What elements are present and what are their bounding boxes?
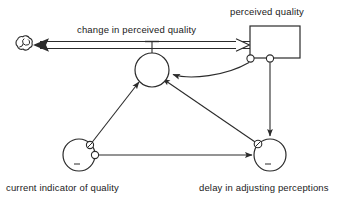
connector-indicator-to-valve[interactable] bbox=[90, 82, 139, 145]
connector-port-indicator-lower bbox=[91, 151, 98, 158]
aux-label-delay-in-adjusting-perceptions: delay in adjusting perceptions bbox=[199, 183, 329, 193]
stock-perceived-quality[interactable] bbox=[250, 26, 300, 58]
connector-delay-to-valve[interactable] bbox=[163, 79, 258, 144]
aux-delay-in-adjusting-perceptions[interactable] bbox=[254, 139, 286, 171]
flow-label-change-in-perceived-quality: change in perceived quality bbox=[77, 25, 196, 35]
connector-stock-to-valve[interactable] bbox=[173, 55, 254, 77]
connector-port-stock-left bbox=[247, 55, 254, 62]
connector-port-stock-bottom bbox=[266, 55, 273, 62]
cloud-icon bbox=[16, 36, 32, 50]
stock-label-perceived-quality: perceived quality bbox=[230, 7, 304, 17]
diagram-canvas: perceived quality change in perceived qu… bbox=[0, 0, 364, 204]
flow-arrowhead-to-cloud bbox=[33, 38, 49, 52]
aux-label-current-indicator-of-quality: current indicator of quality bbox=[6, 183, 119, 193]
flow-pipe-change-in-perceived-quality[interactable] bbox=[33, 38, 250, 52]
aux-current-indicator-of-quality[interactable] bbox=[63, 139, 99, 171]
connector-stock-to-delay[interactable] bbox=[266, 55, 273, 136]
flow-arrowhead-to-stock bbox=[236, 39, 250, 51]
